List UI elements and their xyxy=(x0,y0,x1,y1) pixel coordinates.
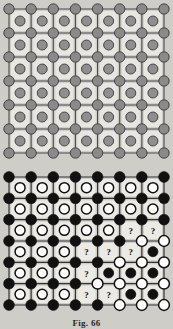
lattice-vertex-gray xyxy=(4,76,14,86)
lattice-cell-ion-open xyxy=(15,247,25,257)
lattice-vertex-filled xyxy=(136,193,147,204)
lattice-cell-ion-gray xyxy=(148,40,158,50)
lattice-cell-ion-open xyxy=(126,183,136,193)
lattice-cell-ion-gray xyxy=(15,64,25,74)
lattice-vertex-gray xyxy=(137,4,147,14)
lattice-vertex-open xyxy=(136,300,147,311)
lattice-vertex-gray xyxy=(92,148,102,158)
lattice-cell-ion-open xyxy=(15,204,25,214)
lattice-vertex-gray xyxy=(26,28,36,38)
lattice-cell-ion-gray xyxy=(148,64,158,74)
lattice-vertex-filled xyxy=(26,193,37,204)
lattice-cell-ion-open xyxy=(15,289,25,299)
lattice-vertex-filled xyxy=(4,257,15,268)
lattice-vertex-open xyxy=(159,257,170,268)
lattice-vertex-gray xyxy=(48,124,58,134)
lattice-vertex-gray xyxy=(26,76,36,86)
lattice-cell-ion-filled xyxy=(126,289,136,299)
lattice-cell-unknown: ? xyxy=(151,226,156,236)
lattice-cell-ion-gray xyxy=(37,112,47,122)
bottom-lattice-svg: ???????? xyxy=(0,168,173,314)
lattice-vertex-gray xyxy=(70,4,80,14)
lattice-cell-ion-filled xyxy=(148,289,158,299)
lattice-cell-ion-gray xyxy=(82,16,92,26)
lattice-cell-ion-gray xyxy=(37,64,47,74)
lattice-cell-unknown: ? xyxy=(84,247,89,257)
lattice-cell-ion-open xyxy=(37,183,47,193)
lattice-cell-ion-gray xyxy=(126,88,136,98)
lattice-vertex-open xyxy=(136,236,147,247)
lattice-vertex-gray xyxy=(48,28,58,38)
lattice-cell-ion-gray xyxy=(59,40,69,50)
lattice-vertex-filled xyxy=(48,257,59,268)
lattice-vertex-gray xyxy=(70,148,80,158)
lattice-vertex-gray xyxy=(4,4,14,14)
lattice-vertex-gray xyxy=(48,148,58,158)
lattice-vertex-gray xyxy=(4,52,14,62)
lattice-cell-unknown: ? xyxy=(106,290,111,300)
lattice-vertex-gray xyxy=(137,100,147,110)
lattice-vertex-filled xyxy=(48,278,59,289)
lattice-cell-ion-open xyxy=(37,268,47,278)
lattice-cell-ion-gray xyxy=(15,40,25,50)
lattice-cell-ion-gray xyxy=(37,136,47,146)
lattice-vertex-gray xyxy=(92,4,102,14)
lattice-vertex-open xyxy=(114,278,125,289)
lattice-cell-ion-open xyxy=(15,268,25,278)
lattice-vertex-gray xyxy=(48,52,58,62)
lattice-vertex-gray xyxy=(70,100,80,110)
lattice-cell-ion-open xyxy=(59,204,69,214)
lattice-cell-ion-gray xyxy=(148,112,158,122)
lattice-cell-unknown: ? xyxy=(129,247,134,257)
lattice-vertex-gray xyxy=(137,52,147,62)
lattice-vertex-gray xyxy=(26,4,36,14)
lattice-cell-ion-open xyxy=(59,289,69,299)
lattice-cell-ion-open xyxy=(82,183,92,193)
lattice-cell-ion-gray xyxy=(148,16,158,26)
lattice-vertex-gray xyxy=(26,148,36,158)
lattice-vertex-filled xyxy=(26,278,37,289)
lattice-vertex-filled xyxy=(70,193,81,204)
lattice-cell-ion-gray xyxy=(126,112,136,122)
lattice-vertex-filled xyxy=(4,172,15,183)
lattice-cell-ion-gray xyxy=(126,16,136,26)
lattice-vertex-gray xyxy=(159,100,169,110)
lattice-vertex-filled xyxy=(114,172,125,183)
lattice-vertex-gray xyxy=(70,124,80,134)
lattice-cell-unknown: ? xyxy=(84,290,89,300)
lattice-vertex-filled xyxy=(114,236,125,247)
lattice-vertex-gray xyxy=(4,28,14,38)
lattice-vertex-filled xyxy=(159,214,170,225)
lattice-vertex-filled xyxy=(70,300,81,311)
lattice-vertex-filled xyxy=(4,193,15,204)
lattice-vertex-gray xyxy=(115,52,125,62)
lattice-cell-ion-open xyxy=(37,247,47,257)
lattice-cell-ion-gray xyxy=(104,64,114,74)
lattice-vertex-filled xyxy=(70,236,81,247)
lattice-vertex-gray xyxy=(115,148,125,158)
lattice-cell-ion-gray xyxy=(15,16,25,26)
lattice-vertex-filled xyxy=(48,214,59,225)
lattice-vertex-filled xyxy=(136,172,147,183)
lattice-vertex-filled xyxy=(114,214,125,225)
lattice-vertex-gray xyxy=(48,100,58,110)
lattice-cell-ion-gray xyxy=(104,16,114,26)
lattice-vertex-filled xyxy=(4,300,15,311)
lattice-vertex-gray xyxy=(4,148,14,158)
lattice-cell-ion-gray xyxy=(15,112,25,122)
lattice-vertex-filled xyxy=(136,214,147,225)
lattice-cell-ion-gray xyxy=(148,88,158,98)
lattice-cell-ion-gray xyxy=(37,88,47,98)
lattice-vertex-gray xyxy=(92,76,102,86)
lattice-cell-ion-open xyxy=(104,204,114,214)
lattice-cell-ion-open xyxy=(59,183,69,193)
lattice-vertex-gray xyxy=(70,28,80,38)
lattice-cell-ion-filled xyxy=(104,268,114,278)
lattice-cell-ion-open xyxy=(126,204,136,214)
lattice-cell-ion-open xyxy=(59,268,69,278)
lattice-cell-ion-open xyxy=(15,225,25,235)
lattice-cell-ion-gray xyxy=(37,40,47,50)
lattice-cell-ion-open xyxy=(37,289,47,299)
lattice-cell-ion-gray xyxy=(82,136,92,146)
lattice-cell-ion-filled xyxy=(148,247,158,257)
